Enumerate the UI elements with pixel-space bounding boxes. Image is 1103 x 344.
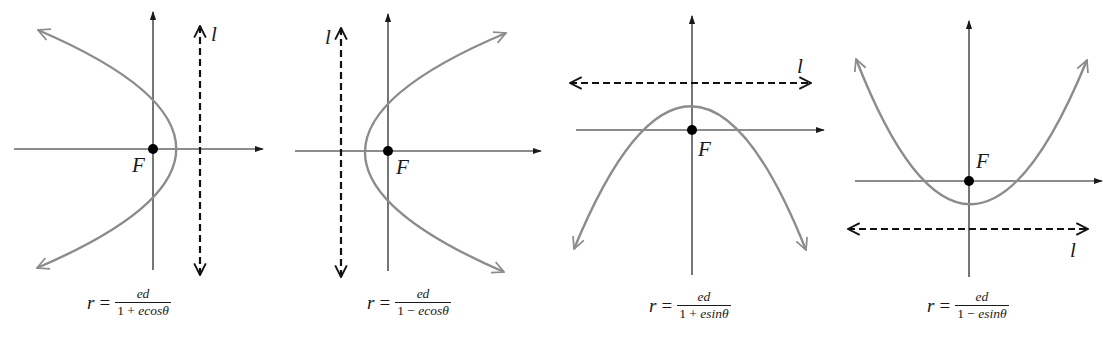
denominator-constant: 1 +	[117, 303, 138, 318]
formula-fraction: ed 1 + ecosθ	[115, 287, 171, 318]
formula-lhs: r	[649, 295, 656, 317]
focus-point	[148, 144, 158, 154]
formula-equals: =	[939, 295, 950, 317]
formula-lhs: r	[367, 292, 374, 314]
panel-1	[14, 12, 263, 275]
formula-fraction: ed 1 − esinθ	[955, 290, 1009, 321]
panel-3	[570, 16, 824, 275]
polar-equation-4: r = ed 1 − esinθ	[927, 290, 1009, 321]
formula-denominator: 1 + ecosθ	[115, 302, 171, 318]
formula-numerator: ed	[135, 287, 152, 302]
formula-lhs: r	[87, 292, 94, 314]
focus-label: F	[396, 157, 409, 178]
formula-denominator: 1 + esinθ	[677, 305, 731, 321]
focus-label: F	[698, 139, 711, 160]
focus-point	[964, 176, 974, 186]
panel-2	[295, 14, 541, 277]
focus-point	[383, 146, 393, 156]
conic-polar-equations-figure: F l F l F l F l r = ed 1 + ecosθ r = ed …	[0, 0, 1103, 344]
formula-numerator: ed	[974, 290, 991, 305]
panel-4	[848, 21, 1102, 277]
denominator-term: ecosθ	[138, 303, 169, 318]
directrix-label: l	[325, 27, 331, 48]
formula-fraction: ed 1 + esinθ	[677, 290, 731, 321]
formula-equals: =	[661, 295, 672, 317]
denominator-term: ecosθ	[418, 303, 449, 318]
focus-label: F	[132, 155, 145, 176]
polar-equation-2: r = ed 1 − ecosθ	[367, 287, 451, 318]
denominator-constant: 1 −	[397, 303, 418, 318]
focus-point	[687, 125, 697, 135]
focus-label: F	[976, 151, 989, 172]
formula-lhs: r	[927, 295, 934, 317]
denominator-term: esinθ	[700, 306, 728, 321]
directrix-label: l	[1070, 240, 1076, 261]
directrix-label: l	[211, 24, 217, 45]
denominator-term: esinθ	[978, 306, 1006, 321]
formula-numerator: ed	[696, 290, 713, 305]
denominator-constant: 1 −	[957, 306, 978, 321]
polar-equation-1: r = ed 1 + ecosθ	[87, 287, 171, 318]
formula-equals: =	[379, 292, 390, 314]
directrix-label: l	[797, 56, 803, 77]
denominator-constant: 1 +	[679, 306, 700, 321]
formula-denominator: 1 − esinθ	[955, 305, 1009, 321]
formula-fraction: ed 1 − ecosθ	[395, 287, 451, 318]
formula-equals: =	[99, 292, 110, 314]
formula-denominator: 1 − ecosθ	[395, 302, 451, 318]
formula-numerator: ed	[415, 287, 432, 302]
polar-equation-3: r = ed 1 + esinθ	[649, 290, 731, 321]
